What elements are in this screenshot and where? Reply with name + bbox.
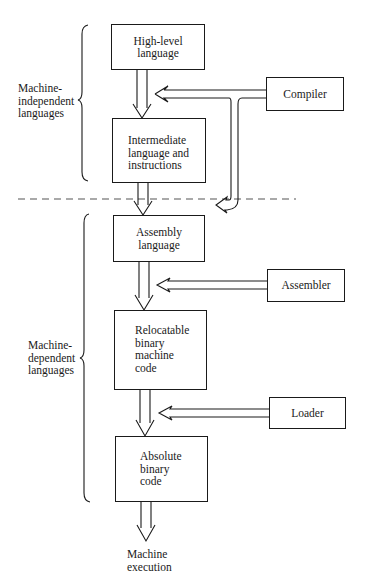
brace-dependent xyxy=(80,214,90,502)
stage-relocatable-binary-code: Relocatable binary machine code xyxy=(114,310,207,390)
stage-label: Relocatable binary machine code xyxy=(135,324,189,374)
brace-independent xyxy=(78,25,88,181)
group-label-machine-independent: Machine- independent languages xyxy=(18,82,74,120)
output-machine-execution: Machine execution xyxy=(127,548,172,573)
tool-assembler: Assembler xyxy=(267,269,345,302)
tool-loader: Loader xyxy=(269,397,346,429)
tool-label: Compiler xyxy=(283,88,326,101)
tool-label: Loader xyxy=(291,407,324,420)
group-label-machine-dependent: Machine- dependent languages xyxy=(28,339,75,377)
stage-high-level-language: High-level language xyxy=(111,24,205,70)
stage-label: Intermediate language and instructions xyxy=(128,134,189,172)
stage-label: Assembly language xyxy=(136,226,182,251)
stage-assembly-language: Assembly language xyxy=(113,215,205,262)
stage-absolute-binary-code: Absolute binary code xyxy=(115,436,208,502)
tool-label: Assembler xyxy=(281,279,330,292)
tool-compiler: Compiler xyxy=(266,77,344,111)
stage-label: High-level language xyxy=(133,35,182,60)
stage-label: Absolute binary code xyxy=(140,450,182,488)
stage-intermediate-language: Intermediate language and instructions xyxy=(112,118,206,183)
